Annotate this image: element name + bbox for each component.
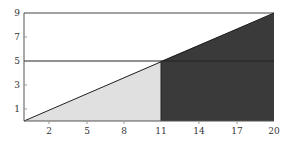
chart: 9 7 5 3 1 2 5 8 11 14 17 20 xyxy=(0,0,294,142)
y-tick-7: 7 xyxy=(14,32,20,42)
x-tick-8: 8 xyxy=(121,126,127,136)
x-tick-5: 5 xyxy=(84,126,90,136)
x-tick-14: 14 xyxy=(193,126,205,136)
y-tick-3: 3 xyxy=(14,80,20,90)
y-tick-labels: 9 7 5 3 1 xyxy=(14,8,20,114)
dark-area-region xyxy=(161,13,274,121)
x-tick-20: 20 xyxy=(268,126,280,136)
x-tick-17: 17 xyxy=(231,126,243,136)
y-tick-1: 1 xyxy=(14,104,20,114)
x-tick-2: 2 xyxy=(46,126,52,136)
y-tick-9: 9 xyxy=(14,8,20,18)
y-tick-5: 5 xyxy=(14,56,20,66)
x-tick-labels: 2 5 8 11 14 17 20 xyxy=(46,126,280,136)
x-tick-11: 11 xyxy=(155,126,166,136)
